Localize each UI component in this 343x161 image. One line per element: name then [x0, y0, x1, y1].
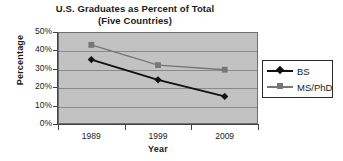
chart-figure: U.S. Graduates as Percent of Total (Five… — [0, 0, 343, 161]
x-axis-tick — [58, 125, 59, 130]
legend-box: BS MS/PhD — [262, 60, 333, 98]
chart-title-line-2: (Five Countries) — [0, 15, 270, 27]
x-axis-tick — [125, 125, 126, 130]
x-axis-tick-label: 1999 — [135, 131, 181, 141]
x-axis-line — [57, 124, 259, 125]
y-axis-tick-label: 0% — [18, 119, 52, 128]
chart-title: U.S. Graduates as Percent of Total (Five… — [0, 3, 270, 26]
y-axis-title: Percentage — [15, 19, 25, 101]
chart-title-line-1: U.S. Graduates as Percent of Total — [56, 3, 214, 14]
x-axis-tick-label: 1989 — [68, 131, 114, 141]
x-axis-tick — [191, 125, 192, 130]
data-point-marker — [88, 42, 94, 48]
data-point-marker — [222, 67, 228, 73]
data-point-marker — [155, 62, 161, 68]
data-point-marker — [154, 76, 161, 83]
y-axis-tick-label: 10% — [18, 101, 52, 110]
legend-entry-msphd: MS/PhD — [267, 80, 332, 94]
legend-diamond-icon — [276, 66, 284, 74]
legend-key-bs — [267, 65, 293, 77]
data-series-layer — [58, 32, 258, 124]
x-axis-tick — [258, 125, 259, 130]
x-axis-title: Year — [58, 144, 258, 154]
legend-label-bs: BS — [297, 66, 310, 77]
legend-key-msphd — [267, 81, 293, 93]
x-axis-tick-label: 2009 — [202, 131, 248, 141]
legend-entry-bs: BS — [267, 64, 310, 78]
data-point-marker — [221, 93, 228, 100]
data-point-marker — [88, 56, 95, 63]
legend-label-msphd: MS/PhD — [297, 82, 332, 93]
legend-square-icon — [277, 83, 283, 89]
